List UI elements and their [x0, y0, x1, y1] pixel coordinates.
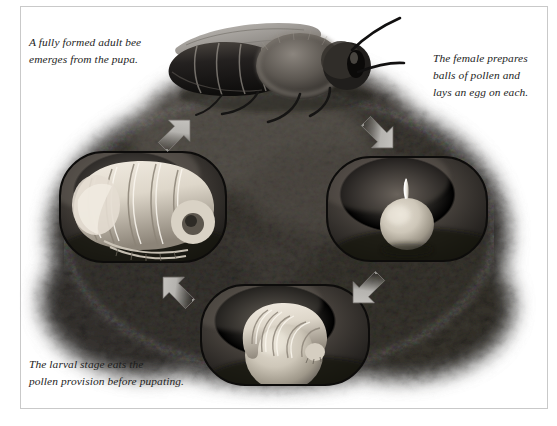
caption-larval-stage: The larval stage eats the pollen provisi…	[29, 356, 184, 390]
figure-page: A fully formed adult bee emerges from th…	[0, 0, 557, 426]
pollen-ball	[380, 198, 434, 250]
caption-adult-bee: A fully formed adult bee emerges from th…	[29, 34, 141, 68]
bee-antenna-upper	[352, 18, 400, 50]
caption-female-prepares: The female prepares balls of pollen and …	[433, 50, 528, 101]
